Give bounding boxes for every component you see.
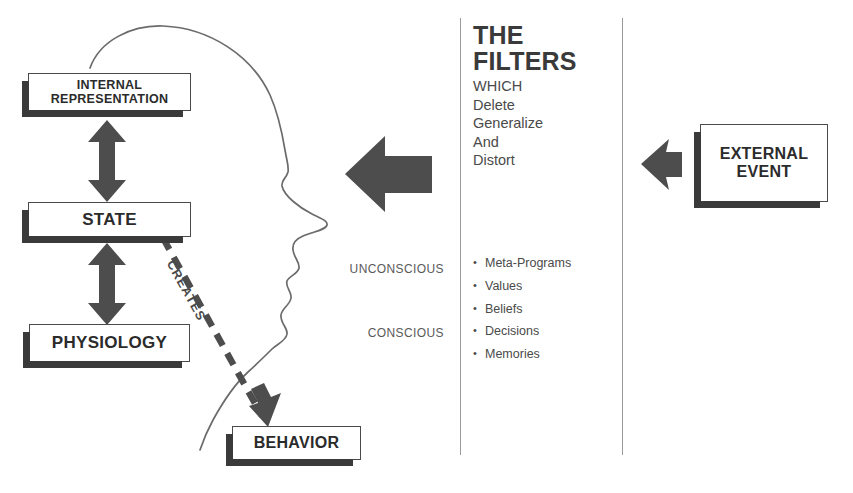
filters-sub-line-4: Distort xyxy=(473,151,618,170)
ir-line-1: INTERNAL xyxy=(77,78,143,92)
list-item: Meta-Programs xyxy=(473,252,618,275)
box-state[interactable]: STATE xyxy=(28,202,191,237)
filter-items-ul: Meta-Programs Values Beliefs Decisions M… xyxy=(473,252,618,366)
filters-title-line-2: FILTERS xyxy=(473,47,577,75)
arrow-ir-state xyxy=(88,120,126,202)
filter-items-list: Meta-Programs Values Beliefs Decisions M… xyxy=(473,252,618,366)
column-divider-right xyxy=(622,18,623,455)
list-item: Values xyxy=(473,275,618,298)
filters-title: THE FILTERS xyxy=(473,22,618,74)
filters-sub-line-2: Generalize xyxy=(473,114,618,133)
box-behavior-label: BEHAVIOR xyxy=(254,434,340,452)
filters-sub-line-3: And xyxy=(473,133,618,152)
filters-subtitle: WHICH Delete Generalize And Distort xyxy=(473,77,618,170)
external-event-line-2: EVENT xyxy=(737,163,792,180)
arrow-state-physiology xyxy=(88,243,126,325)
box-external-event-label: EXTERNAL EVENT xyxy=(720,145,809,181)
external-event-arrow xyxy=(641,139,682,190)
label-unconscious: UNCONSCIOUS xyxy=(260,262,444,276)
filters-text-block: THE FILTERS WHICH Delete Generalize And … xyxy=(473,22,618,170)
list-item: Memories xyxy=(473,343,618,366)
list-item: Decisions xyxy=(473,320,618,343)
box-physiology-label: PHYSIOLOGY xyxy=(52,333,167,352)
box-behavior[interactable]: BEHAVIOR xyxy=(232,426,361,460)
nlp-communication-model-diagram: INTERNAL REPRESENTATION STATE PHYSIOLOGY… xyxy=(0,0,853,493)
filters-sub-line-1: Delete xyxy=(473,96,618,115)
box-physiology[interactable]: PHYSIOLOGY xyxy=(29,324,190,362)
box-internal-representation[interactable]: INTERNAL REPRESENTATION xyxy=(28,73,191,111)
large-filter-arrow xyxy=(345,136,432,212)
box-external-event[interactable]: EXTERNAL EVENT xyxy=(700,124,828,202)
label-conscious: CONSCIOUS xyxy=(260,326,444,340)
box-state-label: STATE xyxy=(82,210,137,229)
filters-sub-line-0: WHICH xyxy=(473,77,618,96)
column-divider-left xyxy=(460,18,461,455)
box-internal-representation-label: INTERNAL REPRESENTATION xyxy=(51,78,169,106)
external-event-line-1: EXTERNAL xyxy=(720,145,809,162)
ir-line-2: REPRESENTATION xyxy=(51,92,169,106)
list-item: Beliefs xyxy=(473,298,618,321)
filters-title-line-1: THE xyxy=(473,21,524,49)
